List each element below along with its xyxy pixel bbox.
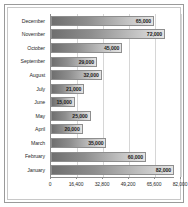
x-tick-mark: [154, 177, 155, 179]
bar-value-label: 25,000: [72, 113, 89, 119]
bar[interactable]: 21,000: [51, 84, 84, 94]
x-tick-mark: [76, 177, 77, 179]
x-axis-line: [50, 177, 174, 178]
x-tick-label: 82,000: [173, 181, 188, 187]
bar-value-label: 20,000: [64, 126, 81, 132]
bar-value-label: 72,000: [147, 31, 164, 37]
category-label: February: [8, 153, 48, 159]
bar[interactable]: 65,000: [51, 16, 154, 26]
x-tick-label: 65,600: [147, 181, 162, 187]
bar-row: 25,000: [51, 111, 174, 121]
bar-value-label: 60,000: [128, 154, 145, 160]
bar[interactable]: 32,000: [51, 70, 102, 80]
category-label: November: [8, 31, 48, 37]
chart-frame: 65,00072,00045,00029,00032,00021,00015,0…: [4, 4, 184, 203]
category-label: June: [8, 99, 48, 105]
category-label: January: [8, 167, 48, 173]
category-label: September: [8, 58, 48, 64]
bar-value-label: 45,000: [104, 45, 121, 51]
bar[interactable]: 35,000: [51, 138, 106, 148]
bar[interactable]: 15,000: [51, 97, 75, 107]
category-label: October: [8, 45, 48, 51]
gridline: [181, 14, 182, 177]
bar-row: 21,000: [51, 84, 174, 94]
bar[interactable]: 29,000: [51, 57, 97, 67]
bar[interactable]: 82,000: [51, 165, 174, 175]
x-tick-label: 0: [49, 181, 52, 187]
bar-row: 29,000: [51, 57, 174, 67]
category-label: July: [8, 86, 48, 92]
bar-row: 60,000: [51, 152, 174, 162]
bar[interactable]: 72,000: [51, 29, 165, 39]
category-label: August: [8, 72, 48, 78]
bar-value-label: 35,000: [88, 140, 105, 146]
bar-row: 45,000: [51, 43, 174, 53]
category-label: March: [8, 140, 48, 146]
x-tick-mark: [102, 177, 103, 179]
bar-value-label: 15,000: [56, 99, 73, 105]
bar-row: 15,000: [51, 97, 174, 107]
bar[interactable]: 25,000: [51, 111, 91, 121]
plot-area: 65,00072,00045,00029,00032,00021,00015,0…: [50, 14, 174, 177]
x-tick-mark: [128, 177, 129, 179]
bar-row: 20,000: [51, 124, 174, 134]
bar[interactable]: 60,000: [51, 152, 146, 162]
bar-row: 82,000: [51, 165, 174, 175]
x-tick-label: 16,400: [69, 181, 84, 187]
bar-row: 32,000: [51, 70, 174, 80]
category-label: May: [8, 113, 48, 119]
chart-inner-border: 65,00072,00045,00029,00032,00021,00015,0…: [7, 7, 181, 200]
bar-value-label: 82,000: [156, 167, 173, 173]
bar-value-label: 29,000: [79, 59, 96, 65]
bar[interactable]: 45,000: [51, 43, 122, 53]
bar-row: 35,000: [51, 138, 174, 148]
category-label: April: [8, 126, 48, 132]
bar-row: 65,000: [51, 16, 174, 26]
x-tick-mark: [50, 177, 51, 179]
bar-value-label: 21,000: [66, 86, 83, 92]
category-label: December: [8, 18, 48, 24]
x-tick-mark: [180, 177, 181, 179]
x-tick-label: 49,200: [121, 181, 136, 187]
bar-value-label: 65,000: [136, 18, 153, 24]
x-tick-label: 32,800: [95, 181, 110, 187]
bar-row: 72,000: [51, 29, 174, 39]
bar-value-label: 32,000: [83, 72, 100, 78]
bar[interactable]: 20,000: [51, 124, 83, 134]
